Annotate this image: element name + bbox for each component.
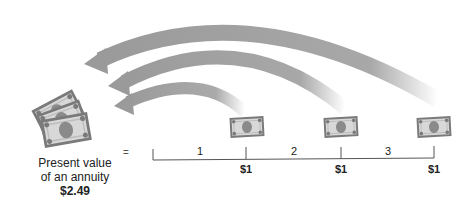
payment-amount-3: $1	[419, 163, 449, 175]
arrow-year-1	[114, 88, 245, 115]
present-value-line1: Present value	[20, 156, 130, 170]
bill-icon-year-1	[231, 117, 264, 137]
period-label-3: 3	[378, 145, 398, 157]
present-value-label: Present value of an annuity $2.49	[20, 156, 130, 197]
present-value-line2: of an annuity	[20, 170, 130, 184]
bill-icon-year-3	[418, 117, 451, 137]
payment-amount-1: $1	[231, 163, 261, 175]
present-value-amount: $2.49	[20, 184, 130, 197]
payment-amount-2: $1	[326, 163, 356, 175]
money-stack-icon	[33, 91, 90, 146]
bill-icon-year-2	[325, 117, 358, 137]
period-label-1: 1	[190, 145, 210, 157]
period-label-2: 2	[284, 145, 304, 157]
